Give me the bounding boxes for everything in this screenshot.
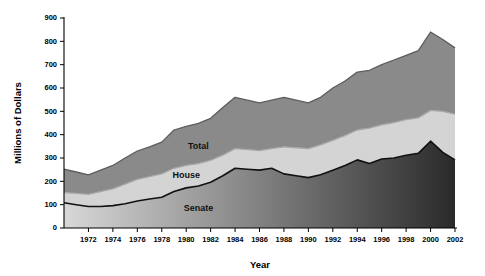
x-tick-label: 1984 (227, 235, 245, 244)
x-tick-label: 1992 (324, 235, 341, 244)
y-axis-ticks: 0100200300400500600700800900 (44, 13, 64, 232)
series-label-senate: Senate (184, 203, 214, 213)
y-axis-title: Millions of Dollars (12, 82, 23, 164)
chart-bands (64, 32, 455, 228)
y-tick-label: 500 (44, 107, 57, 116)
y-tick-label: 100 (44, 200, 57, 209)
y-tick-label: 300 (44, 153, 57, 162)
x-tick-label: 1974 (105, 235, 123, 244)
x-tick-label: 2000 (422, 235, 439, 244)
x-tick-label: 1990 (300, 235, 317, 244)
series-label-house: House (172, 170, 200, 180)
x-axis-ticks: 1972197419761978198019821984198619881990… (80, 228, 463, 244)
y-tick-label: 900 (44, 13, 57, 22)
y-tick-label: 400 (44, 130, 57, 139)
y-tick-label: 700 (44, 60, 57, 69)
y-tick-label: 200 (44, 177, 57, 186)
chart-container: 0100200300400500600700800900 19721974197… (0, 0, 485, 276)
x-tick-label: 1996 (373, 235, 390, 244)
y-tick-label: 0 (53, 223, 57, 232)
x-tick-label: 2002 (447, 235, 464, 244)
x-tick-label: 1998 (398, 235, 415, 244)
x-tick-label: 1986 (251, 235, 268, 244)
x-tick-label: 1994 (349, 235, 367, 244)
x-tick-label: 1978 (153, 235, 170, 244)
series-label-total: Total (188, 141, 209, 151)
x-tick-label: 1980 (178, 235, 195, 244)
x-tick-label: 1972 (80, 235, 97, 244)
x-axis-title: Year (250, 259, 270, 270)
y-tick-label: 600 (44, 83, 57, 92)
area-chart: 0100200300400500600700800900 19721974197… (0, 0, 485, 276)
x-tick-label: 1988 (276, 235, 293, 244)
x-tick-label: 1982 (202, 235, 219, 244)
y-tick-label: 800 (44, 37, 57, 46)
x-tick-label: 1976 (129, 235, 146, 244)
